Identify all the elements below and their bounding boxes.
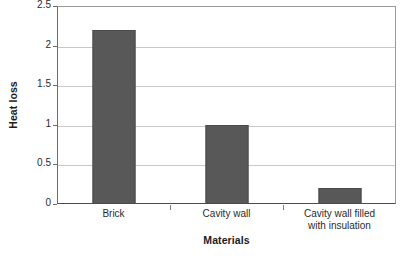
- bar[interactable]: [92, 30, 135, 204]
- x-axis-category-label: Cavity wall filledwith insulation: [283, 208, 396, 232]
- y-axis-tick-label: 0: [20, 197, 51, 208]
- x-axis-category-label-line: Cavity wall: [203, 208, 251, 219]
- y-axis-title: Heat loss: [4, 0, 22, 210]
- y-axis-tick-label: 2: [20, 39, 51, 50]
- y-axis-tick-label: 0.5: [20, 157, 51, 168]
- y-axis-title-text: Heat loss: [7, 81, 19, 129]
- x-axis-title: Materials: [57, 234, 396, 246]
- x-axis-category-label-line: with insulation: [283, 220, 396, 232]
- bar-group: [57, 6, 170, 204]
- bars-layer: [57, 6, 396, 204]
- bar-group: [170, 6, 283, 204]
- x-axis-category-label-line: Cavity wall filled: [304, 208, 375, 219]
- y-axis-tick-label: 1: [20, 118, 51, 129]
- y-axis-tick-label: 2.5: [20, 0, 51, 10]
- bar-chart: Heat loss 00.511.522.5 BrickCavity wallC…: [0, 0, 406, 259]
- x-axis-category-label: Cavity wall: [170, 208, 283, 220]
- y-axis-tick-label: 1.5: [20, 78, 51, 89]
- x-axis-category-label-line: Brick: [102, 208, 124, 219]
- y-axis-tick-mark: [53, 204, 57, 205]
- bar[interactable]: [205, 125, 248, 204]
- bar-group: [283, 6, 396, 204]
- x-axis-category-label: Brick: [57, 208, 170, 220]
- bar[interactable]: [318, 188, 361, 204]
